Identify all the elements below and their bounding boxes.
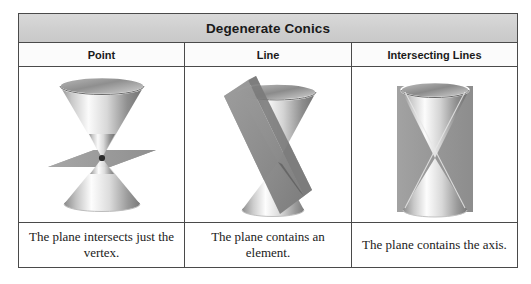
column-header-label: Point [88,49,116,61]
caption-label: The plane intersects just the vertex. [27,229,176,262]
figure-cell-line [185,67,352,222]
column-header-label: Intersecting Lines [387,49,481,61]
vertex-point-marker [98,154,104,160]
double-cone-with-vertical-plane-through-axis-figure [375,70,495,220]
caption-label: The plane contains an element. [193,229,343,262]
double-cone-with-horizontal-plane-through-vertex-figure [42,72,162,218]
figure-cell-intersecting-lines [352,67,517,222]
table-title: Degenerate Conics [206,21,330,36]
caption-label: The plane contains the axis. [362,237,507,253]
column-header-cell-point: Point [19,43,185,66]
column-header-cell-line: Line [185,43,352,66]
table-figure-row [19,67,517,223]
degenerate-conics-table: Degenerate Conics Point Line Intersectin… [18,13,518,268]
table-header-row: Point Line Intersecting Lines [19,43,517,67]
table-title-band: Degenerate Conics [19,14,517,43]
caption-cell-intersecting-lines: The plane contains the axis. [352,223,517,267]
column-header-label: Line [257,49,280,61]
caption-cell-line: The plane contains an element. [185,223,352,267]
table-caption-row: The plane intersects just the vertex. Th… [19,223,517,267]
double-cone-with-tangent-tilted-plane-figure [208,70,328,220]
column-header-cell-intersecting-lines: Intersecting Lines [352,43,517,66]
figure-cell-point [19,67,185,222]
caption-cell-point: The plane intersects just the vertex. [19,223,185,267]
